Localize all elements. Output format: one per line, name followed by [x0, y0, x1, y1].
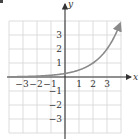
x-tick-label: 3 — [104, 79, 110, 89]
y-tick-label: −3 — [49, 114, 63, 124]
y-tick-label: 2 — [56, 44, 62, 54]
y-tick-label: −1 — [49, 86, 62, 96]
exponential-curve — [8, 25, 120, 77]
y-tick-label: 1 — [56, 58, 62, 68]
x-tick-label: −3 — [15, 79, 29, 89]
x-axis-label: x — [133, 72, 138, 82]
function-graph: −3−2−1123−3−2−1123 x y — [0, 0, 140, 140]
x-tick-label: −2 — [29, 79, 42, 89]
y-axis-label: y — [67, 0, 74, 9]
x-tick-label: 1 — [76, 79, 82, 89]
y-tick-label: −2 — [49, 100, 62, 110]
y-tick-label: 3 — [56, 30, 62, 40]
x-tick-label: 2 — [90, 79, 96, 89]
